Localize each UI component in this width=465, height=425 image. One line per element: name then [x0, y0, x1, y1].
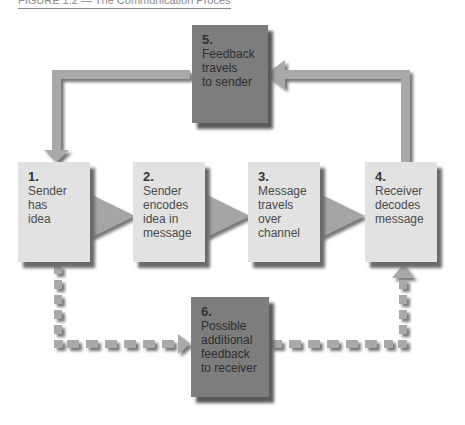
- step-2-line: message: [143, 226, 205, 240]
- step-6-number: 6.: [201, 305, 269, 319]
- step-5-line: Feedback: [202, 47, 268, 61]
- step-4-number: 4.: [375, 170, 437, 184]
- feedback-arrow-to-box1: [44, 70, 190, 162]
- arrow-3-to-4: [320, 194, 365, 238]
- step-3-number: 3.: [258, 170, 320, 184]
- step-4-line: Receiver: [375, 184, 437, 198]
- step-6-box: 6. Possible additional feedback to recei…: [191, 297, 269, 397]
- step-5-line: to sender: [202, 75, 268, 89]
- step-2-number: 2.: [143, 170, 205, 184]
- step-4-line: decodes: [375, 198, 437, 212]
- step-2-line: encodes: [143, 198, 205, 212]
- step-2-box: 2. Sender encodes idea in message: [133, 162, 205, 262]
- feedback-arrow-to-sender: [265, 60, 410, 164]
- step-1-line: has: [28, 198, 90, 212]
- step-5-line: travels: [202, 61, 268, 75]
- step-6-line: additional: [201, 333, 269, 347]
- step-2-line: idea in: [143, 212, 205, 226]
- step-4-line: message: [375, 212, 437, 226]
- step-6-line: to receiver: [201, 361, 269, 375]
- step-1-line: idea: [28, 212, 90, 226]
- step-3-line: channel: [258, 226, 320, 240]
- step-4-box: 4. Receiver decodes message: [365, 162, 437, 262]
- step-1-box: 1. Sender has idea: [18, 162, 90, 262]
- step-3-box: 3. Message travels over channel: [248, 162, 320, 262]
- step-3-line: travels: [258, 198, 320, 212]
- step-5-box: 5. Feedback travels to sender: [192, 25, 268, 123]
- arrow-2-to-3: [205, 194, 250, 238]
- step-1-line: Sender: [28, 184, 90, 198]
- step-6-line: Possible: [201, 319, 269, 333]
- step-1-number: 1.: [28, 170, 90, 184]
- step-6-line: feedback: [201, 347, 269, 361]
- step-3-line: Message: [258, 184, 320, 198]
- step-2-line: Sender: [143, 184, 205, 198]
- dashed-arrow-to-box4: [270, 264, 414, 348]
- arrow-1-to-2: [90, 194, 135, 238]
- step-5-number: 5.: [202, 33, 268, 47]
- step-3-line: over: [258, 212, 320, 226]
- dashed-arrow-to-box6: [54, 266, 190, 354]
